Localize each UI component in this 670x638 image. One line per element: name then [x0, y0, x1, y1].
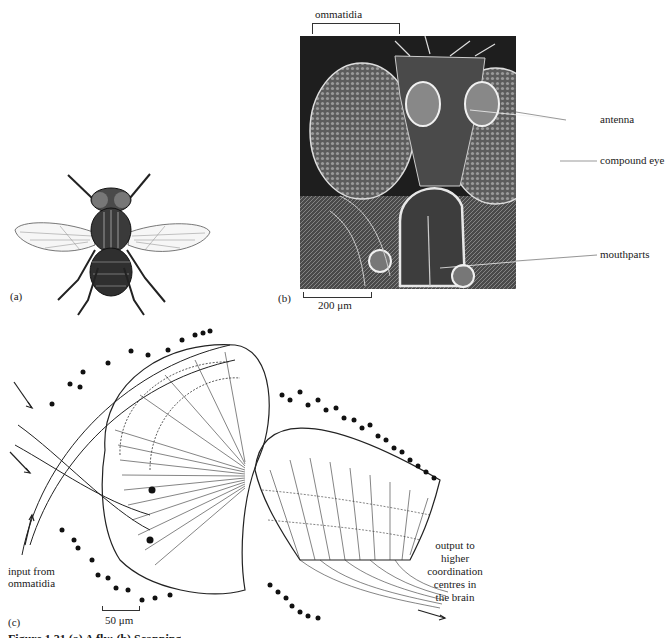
antenna-label: antenna — [600, 113, 634, 126]
panel-c-tag: (c) — [8, 616, 20, 628]
scale-bar-200um-label: 200 μm — [318, 299, 352, 312]
output-label-line-2: higher — [405, 552, 505, 565]
compound-eye-label: compound eye — [600, 154, 664, 167]
sem-micrograph — [300, 36, 516, 289]
mouthparts-label: mouthparts — [600, 248, 650, 261]
input-label-line-2: ommatidia — [8, 577, 55, 590]
neural-diagram — [0, 320, 670, 620]
output-label-line-3: coordination — [405, 565, 505, 578]
output-label: output to higher coordination centres in… — [405, 539, 505, 604]
figure-caption: Figure 1.21 (a) A fly; (b) Scanning — [8, 632, 181, 638]
output-label-line-1: output to — [405, 539, 505, 552]
panel-b-tag: (b) — [278, 292, 291, 304]
ommatidia-label: ommatidia — [315, 8, 362, 21]
ommatidia-bracket — [312, 23, 400, 34]
scale-bar-50um — [102, 606, 140, 611]
output-label-line-4: centres in — [405, 578, 505, 591]
scale-bar-50um-label: 50 μm — [105, 614, 133, 627]
fly-illustration — [0, 150, 230, 310]
scale-bar-200um — [303, 292, 372, 298]
output-label-line-5: the brain — [405, 591, 505, 604]
panel-a — [0, 150, 230, 310]
panel-a-tag: (a) — [10, 290, 22, 302]
